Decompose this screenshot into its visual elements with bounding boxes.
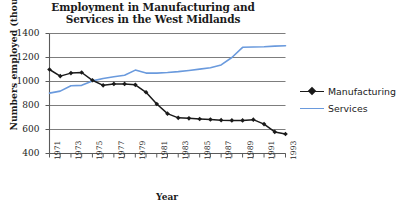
x-tick-label: 1977 <box>117 140 126 159</box>
data-point-marker <box>176 116 181 121</box>
data-point-marker <box>283 132 288 137</box>
x-tick-label: 1973 <box>74 140 83 159</box>
y-tick-label: 1400 <box>12 28 40 38</box>
data-point-marker <box>101 83 106 88</box>
data-point-marker <box>208 117 213 122</box>
x-tick-label: 1993 <box>289 140 298 159</box>
legend-label-services: Services <box>328 103 368 114</box>
y-tick-label: 400 <box>12 148 40 158</box>
gridlines <box>50 34 286 154</box>
legend-label-manufacturing: Manufacturing <box>328 86 396 97</box>
legend-item-services[interactable]: Services <box>300 100 396 117</box>
data-point-marker <box>197 117 202 122</box>
y-tick-label: 600 <box>12 124 40 134</box>
chart-legend: Manufacturing Services <box>300 83 396 117</box>
series-line-manufacturing <box>47 67 288 136</box>
x-tick-label: 1975 <box>95 140 104 159</box>
chart-figure: Employment in Manufacturing and Services… <box>0 0 418 206</box>
data-point-marker <box>230 118 235 123</box>
data-point-marker <box>240 118 245 123</box>
series-line-services <box>50 46 286 93</box>
x-tick-label: 1983 <box>181 140 190 159</box>
x-tick-label: 1989 <box>246 140 255 159</box>
series-path <box>50 70 286 135</box>
data-point-marker <box>219 118 224 123</box>
data-point-marker <box>251 117 256 122</box>
x-tick-label: 1987 <box>224 140 233 159</box>
x-tick-label: 1985 <box>203 140 212 159</box>
y-tick-label: 1000 <box>12 76 40 86</box>
x-tick-label: 1971 <box>53 140 62 159</box>
x-tick-label: 1979 <box>138 140 147 159</box>
y-tick-label: 800 <box>12 100 40 110</box>
y-tick-label: 1200 <box>12 52 40 62</box>
x-tick-label: 1981 <box>160 140 169 159</box>
legend-item-manufacturing[interactable]: Manufacturing <box>300 83 396 100</box>
series-path <box>50 46 286 93</box>
data-point-marker <box>187 116 192 121</box>
data-point-marker <box>122 82 127 87</box>
legend-swatch-services <box>300 103 324 115</box>
x-tick-label: 1991 <box>267 140 276 159</box>
data-point-marker <box>112 82 117 87</box>
axis-lines <box>50 34 286 154</box>
legend-swatch-manufacturing <box>300 86 324 98</box>
data-point-marker <box>69 71 74 76</box>
